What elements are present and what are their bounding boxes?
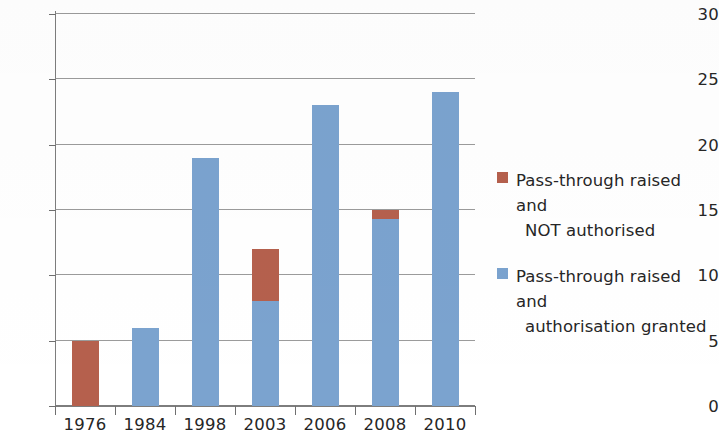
legend-item-authorisation-granted[interactable]: Pass-through raised and authorisation gr… bbox=[497, 264, 713, 339]
legend-label-authorisation-granted: Pass-through raised and authorisation gr… bbox=[516, 264, 713, 339]
legend-label-not-authorised: Pass-through raised and NOT authorised bbox=[516, 168, 713, 243]
x-tick-label-2008: 2008 bbox=[364, 415, 407, 434]
x-axis-line bbox=[55, 406, 475, 407]
bar-group-2003[interactable] bbox=[252, 14, 279, 406]
bar-group-1976[interactable] bbox=[72, 14, 99, 406]
bar-group-1998[interactable] bbox=[192, 14, 219, 406]
x-tick-mark-6 bbox=[415, 406, 416, 415]
bar-group-2006[interactable] bbox=[312, 14, 339, 406]
legend-swatch-brown-icon bbox=[497, 172, 508, 183]
y-tick-label-0: 0 bbox=[675, 397, 719, 416]
legend-line-1: Pass-through raised and bbox=[516, 171, 681, 215]
x-tick-label-1976: 1976 bbox=[64, 415, 107, 434]
legend-swatch-blue-icon bbox=[497, 268, 508, 279]
x-tick-mark-0 bbox=[55, 406, 56, 415]
bar-segment-granted-2010[interactable] bbox=[432, 92, 459, 406]
bar-segment-granted-2003[interactable] bbox=[252, 301, 279, 406]
x-tick-mark-end bbox=[475, 406, 476, 415]
bar-group-2010[interactable] bbox=[432, 14, 459, 406]
x-tick-mark-2 bbox=[175, 406, 176, 415]
x-tick-label-1984: 1984 bbox=[124, 415, 167, 434]
bar-group-1984[interactable] bbox=[132, 14, 159, 406]
bar-segment-granted-2006[interactable] bbox=[312, 105, 339, 406]
x-tick-mark-3 bbox=[235, 406, 236, 415]
bar-segment-granted-2008[interactable] bbox=[372, 219, 399, 406]
legend-item-not-authorised[interactable]: Pass-through raised and NOT authorised bbox=[497, 168, 713, 243]
bar-segment-not-authorised-2008[interactable] bbox=[372, 210, 399, 219]
x-tick-mark-1 bbox=[115, 406, 116, 415]
legend-line-1: Pass-through raised and bbox=[516, 267, 681, 311]
legend-line-2: NOT authorised bbox=[516, 218, 713, 243]
plot-area bbox=[55, 14, 475, 406]
legend-line-2: authorisation granted bbox=[516, 314, 713, 339]
bar-segment-granted-1984[interactable] bbox=[132, 328, 159, 406]
y-tick-label-25: 25 bbox=[675, 70, 719, 89]
x-tick-mark-5 bbox=[355, 406, 356, 415]
bar-segment-granted-1998[interactable] bbox=[192, 158, 219, 406]
x-tick-label-1998: 1998 bbox=[184, 415, 227, 434]
x-tick-label-2010: 2010 bbox=[424, 415, 467, 434]
bars-layer bbox=[55, 14, 475, 406]
x-tick-mark-4 bbox=[295, 406, 296, 415]
x-tick-label-2003: 2003 bbox=[244, 415, 287, 434]
bar-segment-not-authorised-2003[interactable] bbox=[252, 249, 279, 301]
x-tick-label-2006: 2006 bbox=[304, 415, 347, 434]
bar-chart: 051015202530 197619841998200320062008201… bbox=[0, 0, 719, 437]
y-tick-label-20: 20 bbox=[675, 135, 719, 154]
bar-segment-not-authorised-1976[interactable] bbox=[72, 341, 99, 406]
y-tick-label-30: 30 bbox=[675, 5, 719, 24]
chart-legend: Pass-through raised and NOT authorised P… bbox=[497, 168, 713, 360]
bar-group-2008[interactable] bbox=[372, 14, 399, 406]
